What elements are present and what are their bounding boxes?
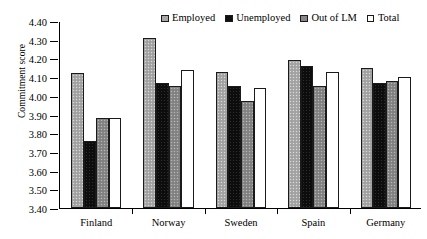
bar-spain-out-of-lm (313, 86, 326, 208)
y-axis-tick-label: 3.40 (29, 204, 47, 215)
y-axis-tick (50, 116, 58, 117)
bar-sweden-out-of-lm (241, 101, 254, 208)
bar-finland-employed (71, 73, 84, 208)
x-axis-label-norway: Norway (152, 217, 186, 228)
bar-norway-unemployed (156, 83, 169, 208)
y-axis-title: Commitment score (17, 11, 27, 151)
bar-norway-total (181, 70, 194, 208)
y-axis-tick-label: 4.40 (29, 17, 47, 28)
legend-swatch-icon (367, 15, 375, 23)
legend-swatch-icon (300, 15, 308, 23)
legend-swatch-icon (225, 15, 233, 23)
bar-finland-unemployed (84, 141, 97, 208)
plot-area: 4.404.304.204.104.003.903.803.703.603.50… (59, 22, 421, 209)
y-axis-tick-label: 4.00 (29, 91, 47, 102)
y-axis-tick (50, 22, 58, 23)
bar-sweden-unemployed (228, 86, 241, 208)
x-axis-tick (350, 208, 351, 214)
bar-spain-unemployed (301, 66, 314, 208)
bar-germany-unemployed (373, 83, 386, 208)
y-axis-tick-label: 3.80 (29, 129, 47, 140)
y-axis-tick (50, 134, 58, 135)
x-axis-label-spain: Spain (301, 217, 325, 228)
bar-norway-out-of-lm (169, 86, 182, 208)
bar-finland-out-of-lm (96, 118, 109, 208)
y-axis-tick (50, 209, 58, 210)
x-axis-label-finland: Finland (80, 217, 112, 228)
y-axis-tick-label: 4.10 (29, 73, 47, 84)
y-axis-tick-label: 3.50 (29, 185, 47, 196)
y-axis-tick-label: 4.20 (29, 54, 47, 65)
bar-germany-employed (361, 68, 374, 208)
y-axis-tick-label: 3.60 (29, 166, 47, 177)
x-axis-tick (277, 208, 278, 214)
plot-inner: 4.404.304.204.104.003.903.803.703.603.50… (60, 22, 421, 208)
commitment-score-bar-chart: Commitment score EmployedUnemployedOut o… (0, 0, 427, 239)
y-axis-tick (50, 41, 58, 42)
bar-sweden-total (254, 88, 267, 208)
bar-norway-employed (143, 38, 156, 208)
y-axis-tick (50, 97, 58, 98)
x-axis-label-germany: Germany (366, 217, 405, 228)
y-axis-tick (50, 153, 58, 154)
bar-sweden-employed (216, 72, 229, 209)
bar-spain-employed (288, 60, 301, 208)
y-axis-tick-label: 4.30 (29, 35, 47, 46)
y-axis-tick (50, 190, 58, 191)
bar-germany-total (398, 77, 411, 208)
y-axis-tick-label: 3.90 (29, 110, 47, 121)
x-axis-tick (132, 208, 133, 214)
y-axis-tick (50, 172, 58, 173)
bar-spain-total (326, 72, 339, 209)
bar-finland-total (109, 118, 122, 208)
y-axis-tick (50, 59, 58, 60)
y-axis-tick-label: 3.70 (29, 147, 47, 158)
legend-swatch-icon (161, 15, 169, 23)
bar-germany-out-of-lm (386, 81, 399, 208)
y-axis-tick (50, 78, 58, 79)
x-axis-tick (205, 208, 206, 214)
x-axis-label-sweden: Sweden (224, 217, 257, 228)
